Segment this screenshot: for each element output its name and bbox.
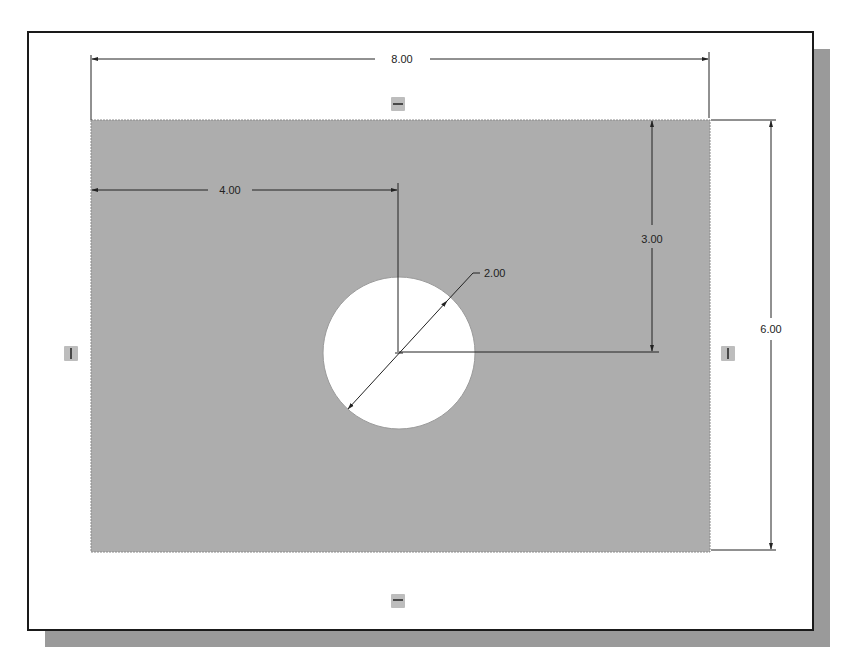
constraint-horizontal-bottom[interactable] [391, 594, 405, 608]
constraint-vertical-left[interactable] [64, 346, 78, 361]
constraint-vertical-right[interactable] [721, 346, 735, 361]
dimension-label-overall-height: 6.00 [760, 323, 781, 335]
part-profile[interactable] [91, 120, 710, 552]
sketch-canvas: 8.00 4.00 3.00 6.00 2.00 [0, 0, 847, 662]
dimension-label-hole-x-offset: 4.00 [219, 184, 240, 196]
dimension-label-hole-y-offset: 3.00 [641, 233, 662, 245]
dimension-label-hole-diameter: 2.00 [484, 267, 505, 279]
dimension-label-overall-width: 8.00 [391, 53, 412, 65]
constraint-horizontal-top[interactable] [391, 97, 405, 111]
